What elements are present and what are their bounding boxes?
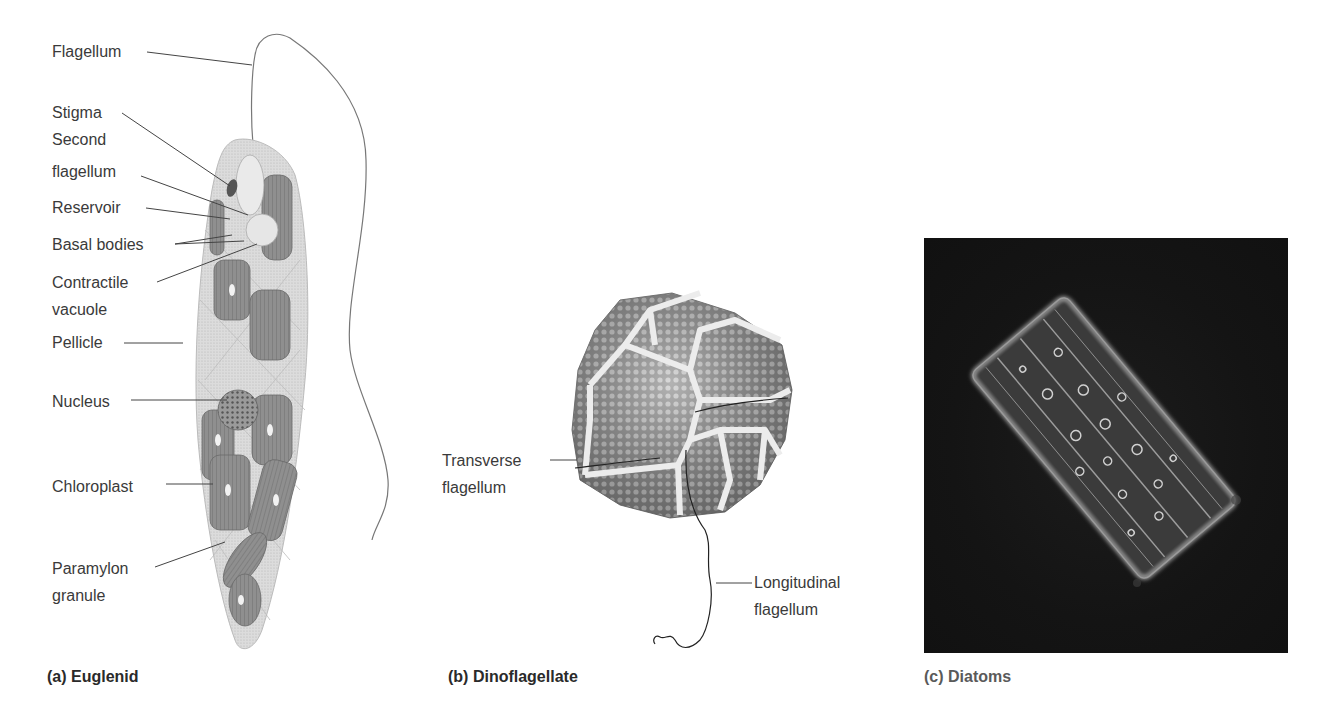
label-longitudinal-flagellum-line2: flagellum (754, 596, 818, 623)
diatom-frustule (924, 238, 1288, 653)
caption-dinoflagellate: (b) Dinoflagellate (448, 668, 578, 686)
caption-diatoms: (c) Diatoms (924, 668, 1011, 686)
label-transverse-flagellum-line2: flagellum (442, 474, 506, 501)
diatom-micrograph (924, 238, 1288, 653)
label-longitudinal-flagellum-line1: Longitudinal (754, 569, 840, 596)
label-transverse-flagellum-line1: Transverse (442, 447, 521, 474)
